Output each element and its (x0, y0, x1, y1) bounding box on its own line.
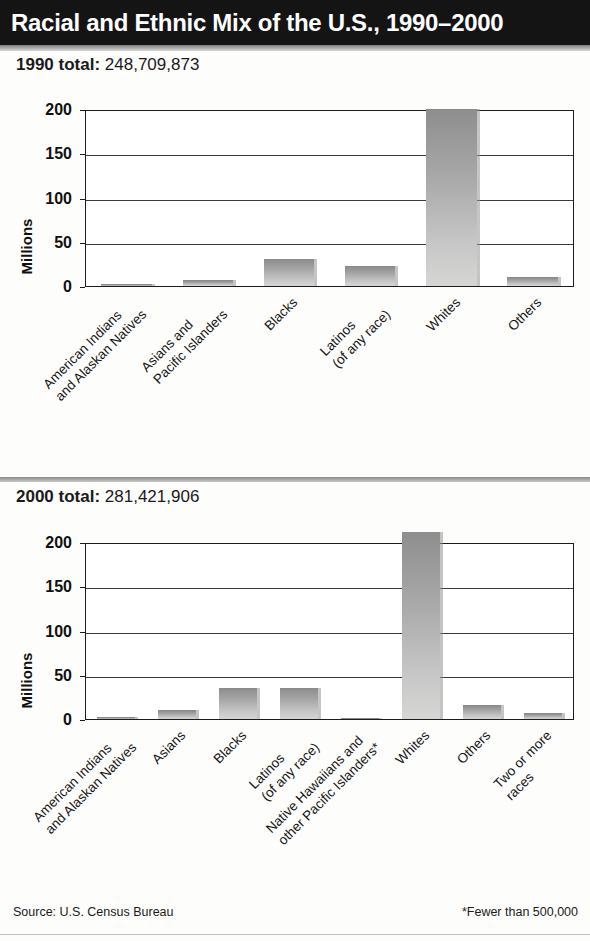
y-tick-label: 0 (63, 278, 72, 296)
x-axis-label: American Indiansand Alaskan Natives (39, 294, 150, 405)
bar (524, 713, 562, 719)
y-axis-1990: Millions 050100150200 (0, 110, 80, 287)
y-tick-label: 50 (54, 234, 72, 252)
x-axis-label: Asians andPacific Islanders (138, 294, 232, 388)
x-axis-label: Blacks (261, 294, 301, 334)
footnote: *Fewer than 500,000 (462, 905, 578, 919)
x-axis-label-line: Whites (392, 727, 433, 768)
x-axis-label-line: Whites (423, 294, 464, 335)
plot-area-1990 (85, 110, 574, 287)
total-1990-value: 248,709,873 (105, 55, 200, 74)
y-tick-label: 200 (45, 534, 72, 552)
y-tick-label: 150 (45, 145, 72, 163)
y-tick-label: 150 (45, 578, 72, 596)
bar-slot (330, 544, 391, 719)
page-title-bar: Racial and Ethnic Mix of the U.S., 1990–… (0, 0, 590, 45)
bar (426, 109, 477, 286)
y-tick-label: 0 (63, 711, 72, 729)
x-axis-label: Latinos(of any race) (317, 294, 395, 372)
bar-slot (248, 111, 329, 286)
x-axis-label-line: Others (454, 727, 495, 768)
x-axis-labels-1990: American Indiansand Alaskan NativesAsian… (85, 288, 574, 438)
footer: Source: U.S. Census Bureau *Fewer than 5… (0, 898, 590, 941)
x-axis-label: Others (454, 727, 495, 768)
bar-group-2000 (86, 544, 573, 719)
plot-area-2000 (85, 543, 574, 720)
x-axis-label: Whites (423, 294, 464, 335)
x-axis-label-line: Blacks (261, 294, 301, 334)
bar (345, 266, 396, 286)
x-axis-label-line: Asians (148, 727, 189, 768)
panel-divider (0, 477, 590, 482)
x-axis-label: Whites (392, 727, 433, 768)
bar-slot (86, 111, 167, 286)
total-2000-label: 2000 total: (16, 487, 100, 506)
y-axis-2000: Millions 050100150200 (0, 543, 80, 720)
y-tick-label: 50 (54, 667, 72, 685)
infographic-page: Racial and Ethnic Mix of the U.S., 1990–… (0, 0, 590, 941)
source-credit: Source: U.S. Census Bureau (13, 905, 174, 919)
bar (507, 277, 558, 286)
chart-panel-1990: 1990 total: 248,709,873 Millions 0501001… (0, 55, 590, 455)
y-tick-label: 200 (45, 101, 72, 119)
bar-slot (492, 111, 573, 286)
bar (97, 717, 135, 719)
y-axis-title-1990: Millions (18, 197, 35, 297)
bar (402, 532, 440, 719)
y-axis-title-2000: Millions (18, 631, 35, 731)
x-axis-label: Two or moreraces (490, 727, 567, 804)
footer-rule (0, 934, 590, 935)
bar-slot (451, 544, 512, 719)
bar (219, 688, 257, 719)
bar-slot (167, 111, 248, 286)
total-1990: 1990 total: 248,709,873 (16, 55, 199, 75)
bar-slot (512, 544, 573, 719)
x-axis-label-line: Others (505, 294, 546, 335)
bar (341, 718, 379, 720)
bar-slot (411, 111, 492, 286)
bar-slot (208, 544, 269, 719)
x-axis-label: American Indiansand Alaskan Natives (29, 727, 140, 838)
bar (183, 280, 234, 286)
bar-group-1990 (86, 111, 573, 286)
page-title: Racial and Ethnic Mix of the U.S., 1990–… (0, 9, 503, 37)
x-axis-label: Blacks (210, 727, 250, 767)
bar-slot (86, 544, 147, 719)
bar-slot (147, 544, 208, 719)
y-tick-label: 100 (45, 190, 72, 208)
bar (158, 710, 196, 719)
total-1990-label: 1990 total: (16, 55, 100, 74)
bar (463, 705, 501, 719)
title-bar-shadow (0, 45, 590, 51)
chart-panel-2000: 2000 total: 281,421,906 Millions 0501001… (0, 487, 590, 902)
y-tick-label: 100 (45, 623, 72, 641)
x-axis-labels-2000: American Indiansand Alaskan NativesAsian… (85, 721, 574, 886)
bar (264, 259, 315, 286)
bar-slot (390, 544, 451, 719)
total-2000-value: 281,421,906 (105, 487, 200, 506)
x-axis-label: Asians (148, 727, 189, 768)
bar-slot (269, 544, 330, 719)
total-2000: 2000 total: 281,421,906 (16, 487, 199, 507)
x-axis-label: Others (505, 294, 546, 335)
x-axis-label-line: Blacks (210, 727, 250, 767)
bar (280, 688, 318, 719)
bar-slot (330, 111, 411, 286)
bar (101, 284, 152, 286)
